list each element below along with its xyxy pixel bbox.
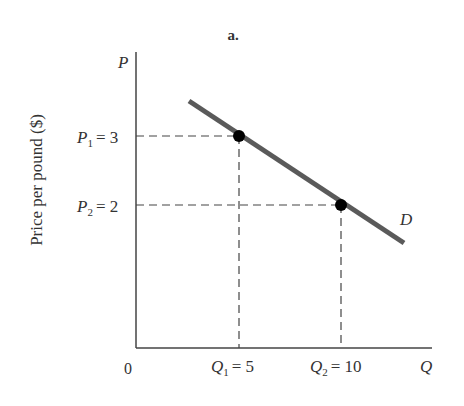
chart-title: a. bbox=[227, 27, 239, 43]
p2-label: P2= 2 bbox=[76, 197, 118, 218]
x-axis-symbol: Q bbox=[420, 357, 432, 376]
demand-chart: a. Price per pound ($) P Q 0 D P1= 3 P2=… bbox=[0, 0, 464, 406]
q2-label: Q2= 10 bbox=[310, 357, 362, 378]
origin-label: 0 bbox=[124, 360, 132, 377]
point-2 bbox=[335, 199, 347, 211]
demand-curve bbox=[189, 101, 404, 243]
p1-label: P1= 3 bbox=[76, 128, 118, 149]
y-axis-symbol: P bbox=[117, 53, 128, 72]
y-axis-label: Price per pound ($) bbox=[27, 114, 46, 246]
point-1 bbox=[233, 130, 245, 142]
q1-label: Q1= 5 bbox=[211, 357, 254, 378]
demand-label: D bbox=[399, 210, 413, 229]
